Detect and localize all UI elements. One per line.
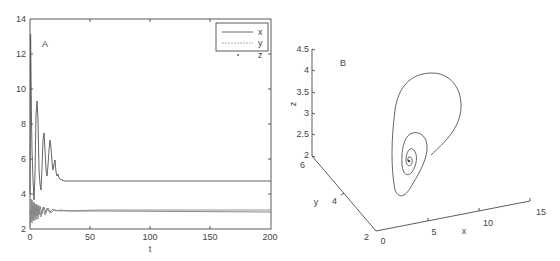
trajectory-curve [392,73,461,196]
legend-label-x: x [258,27,263,37]
z-tick-label: 4 [304,65,309,75]
y-tick-label: 8 [21,119,26,129]
z-tick-label: 2.5 [296,129,309,139]
series-y-line [30,199,271,226]
panel-b: 4.5 4 3.5 3 2.5 2 z 6 4 2 y 0 5 10 15 x … [288,44,546,246]
legend-a: x y z [216,23,268,60]
x-tick-label: 5 [431,227,436,237]
x-tick-label: 10 [483,218,493,228]
legend-label-z: z [258,50,263,60]
y-tick-label: 2 [21,224,26,234]
equilibrium-point [408,160,410,162]
y-tick-label: 12 [16,49,26,59]
panel-label-a: A [42,39,48,49]
panel-label-b: B [340,58,346,68]
panel-a: 0 50 100 150 200 t 2 4 6 8 10 12 14 A x … [16,14,278,254]
x-tick-label: 0 [380,236,385,246]
y-tick-label: 2 [364,232,369,242]
y-tick-label: 14 [16,14,26,24]
x-tick-label: 100 [142,232,157,242]
x-tick-label: 150 [202,232,217,242]
x-tick-label: 50 [85,232,95,242]
z-tick-label: 3 [304,108,309,118]
y-tick-label: 6 [21,154,26,164]
z-tick-label: 3.5 [296,87,309,97]
y-axis-label: y [314,197,319,207]
series-x-line [30,34,271,200]
x-axis [376,201,530,231]
z-tick-label: 4.5 [296,44,309,54]
z-tick-label: 2 [304,150,309,160]
x-axis-label: t [149,244,152,254]
y-tick-label: 6 [300,160,305,170]
x-tick-label: 0 [27,232,32,242]
y-axis [312,156,376,231]
x-tick-label: 200 [262,232,277,242]
y-tick-label: 10 [16,84,26,94]
x-tick-label: 15 [536,207,546,217]
figure: 0 50 100 150 200 t 2 4 6 8 10 12 14 A x … [0,0,560,261]
legend-label-y: y [258,38,263,48]
z-axis-label: z [288,101,298,106]
y-tick-label: 4 [332,196,337,206]
y-tick-label: 4 [21,189,26,199]
legend-swatch-z [237,54,239,56]
x-axis-label: x [462,226,467,236]
